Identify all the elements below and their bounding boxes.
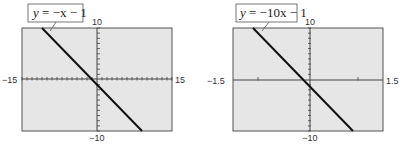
figure: y = −x − 1 10 −10 −15 15 y = −10x − 1 10…	[0, 0, 402, 148]
graph-left: y = −x − 1 10 −10 −15 15	[2, 4, 185, 143]
graph-right-equation: y = −10x − 1	[238, 5, 307, 20]
graph-right-ymin-label: −10	[302, 133, 317, 143]
graph-left-xmax-label: 15	[175, 75, 185, 85]
graph-left-ymax-label: 10	[92, 17, 102, 27]
graph-right-xmin-label: −1.5	[207, 76, 225, 86]
graph-left-xmin-label: −15	[2, 75, 17, 85]
graph-left-equation: y = −x − 1	[31, 5, 87, 20]
graph-right-xmax-label: 1.5	[386, 76, 399, 86]
graph-left-ymin-label: −10	[89, 133, 104, 143]
graph-right: y = −10x − 1 10 −10 −1.5 1.5	[207, 4, 399, 143]
graph-right-ymax-label: 10	[305, 17, 315, 27]
